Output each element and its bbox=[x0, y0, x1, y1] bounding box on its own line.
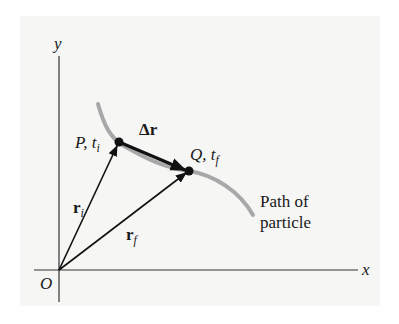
path-label-line2: particle bbox=[260, 213, 311, 232]
path-label-line1: Path of bbox=[260, 192, 309, 211]
vector-r-i bbox=[59, 146, 117, 270]
point-p bbox=[115, 138, 124, 147]
r-i-label: ri bbox=[73, 198, 84, 220]
diagram-canvas: y x O P, ti Q, tf Δr ri rf Path of parti… bbox=[0, 0, 399, 324]
vector-delta-r bbox=[119, 142, 185, 170]
point-q-label: Q, tf bbox=[190, 145, 221, 167]
origin-label: O bbox=[40, 274, 52, 293]
vector-r-f bbox=[59, 173, 186, 270]
point-q bbox=[185, 167, 194, 176]
delta-r-label: Δr bbox=[139, 120, 158, 139]
y-axis-label: y bbox=[52, 34, 62, 53]
point-p-label: P, ti bbox=[74, 133, 100, 155]
particle-path bbox=[98, 104, 253, 215]
r-f-label: rf bbox=[126, 225, 139, 247]
diagram-stage: y x O P, ti Q, tf Δr ri rf Path of parti… bbox=[0, 0, 399, 324]
x-axis-label: x bbox=[361, 260, 370, 279]
